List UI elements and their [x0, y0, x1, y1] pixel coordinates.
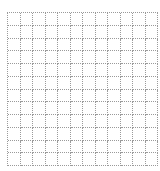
grid-cell[interactable] [146, 39, 159, 52]
grid-cell[interactable] [108, 153, 121, 166]
grid-cell[interactable] [8, 90, 21, 103]
grid-cell[interactable] [21, 39, 34, 52]
grid-cell[interactable] [133, 64, 146, 77]
grid-cell[interactable] [121, 51, 134, 64]
grid-cell[interactable] [46, 26, 59, 39]
grid-cell[interactable] [96, 90, 109, 103]
grid-cell[interactable] [33, 64, 46, 77]
grid-cell[interactable] [58, 64, 71, 77]
grid-cell[interactable] [8, 64, 21, 77]
grid-cell[interactable] [146, 153, 159, 166]
grid-cell[interactable] [33, 77, 46, 90]
grid-cell[interactable] [83, 115, 96, 128]
grid-cell[interactable] [121, 141, 134, 154]
grid-cell[interactable] [58, 141, 71, 154]
grid-cell[interactable] [46, 141, 59, 154]
grid-cell[interactable] [96, 39, 109, 52]
grid-cell[interactable] [71, 13, 84, 26]
grid-cell[interactable] [146, 141, 159, 154]
grid-cell[interactable] [21, 26, 34, 39]
grid-cell[interactable] [83, 51, 96, 64]
grid-cell[interactable] [33, 26, 46, 39]
grid-cell[interactable] [96, 153, 109, 166]
grid-cell[interactable] [96, 64, 109, 77]
grid-cell[interactable] [133, 77, 146, 90]
grid-cell[interactable] [96, 115, 109, 128]
grid-cell[interactable] [33, 13, 46, 26]
grid-cell[interactable] [108, 39, 121, 52]
grid-cell[interactable] [21, 77, 34, 90]
grid-cell[interactable] [21, 13, 34, 26]
grid-cell[interactable] [146, 102, 159, 115]
grid-cell[interactable] [46, 77, 59, 90]
grid-cell[interactable] [71, 77, 84, 90]
grid-cell[interactable] [108, 51, 121, 64]
grid-cell[interactable] [33, 115, 46, 128]
grid-cell[interactable] [71, 51, 84, 64]
grid-cell[interactable] [71, 64, 84, 77]
grid-cell[interactable] [58, 153, 71, 166]
grid-cell[interactable] [83, 102, 96, 115]
grid-cell[interactable] [8, 102, 21, 115]
grid-cell[interactable] [133, 26, 146, 39]
grid-cell[interactable] [83, 90, 96, 103]
grid-cell[interactable] [108, 102, 121, 115]
grid-cell[interactable] [8, 51, 21, 64]
grid-cell[interactable] [8, 77, 21, 90]
grid-cell[interactable] [8, 115, 21, 128]
grid-cell[interactable] [46, 102, 59, 115]
grid-cell[interactable] [46, 39, 59, 52]
grid-cell[interactable] [133, 90, 146, 103]
grid-cell[interactable] [33, 102, 46, 115]
grid-cell[interactable] [33, 51, 46, 64]
grid-cell[interactable] [83, 128, 96, 141]
grid-cell[interactable] [108, 26, 121, 39]
grid-cell[interactable] [83, 153, 96, 166]
grid-cell[interactable] [133, 153, 146, 166]
grid-cell[interactable] [146, 26, 159, 39]
grid-cell[interactable] [8, 13, 21, 26]
grid-cell[interactable] [96, 26, 109, 39]
grid-cell[interactable] [108, 141, 121, 154]
grid-cell[interactable] [71, 141, 84, 154]
grid-cell[interactable] [96, 13, 109, 26]
grid-cell[interactable] [83, 64, 96, 77]
grid-cell[interactable] [121, 39, 134, 52]
grid-cell[interactable] [33, 39, 46, 52]
grid-cell[interactable] [108, 64, 121, 77]
grid-cell[interactable] [108, 115, 121, 128]
grid-cell[interactable] [46, 13, 59, 26]
grid-cell[interactable] [96, 51, 109, 64]
grid-cell[interactable] [46, 115, 59, 128]
grid-cell[interactable] [71, 128, 84, 141]
grid-cell[interactable] [121, 26, 134, 39]
grid-cell[interactable] [133, 51, 146, 64]
grid-cell[interactable] [146, 51, 159, 64]
grid-cell[interactable] [58, 39, 71, 52]
grid-cell[interactable] [83, 77, 96, 90]
grid-cell[interactable] [133, 141, 146, 154]
grid-cell[interactable] [21, 90, 34, 103]
grid-cell[interactable] [83, 141, 96, 154]
grid-cell[interactable] [46, 90, 59, 103]
grid-cell[interactable] [96, 141, 109, 154]
grid-cell[interactable] [146, 128, 159, 141]
grid-cell[interactable] [83, 13, 96, 26]
grid-cell[interactable] [146, 13, 159, 26]
grid-cell[interactable] [146, 115, 159, 128]
grid-cell[interactable] [21, 153, 34, 166]
grid-cell[interactable] [58, 115, 71, 128]
grid-cell[interactable] [121, 153, 134, 166]
grid-cell[interactable] [121, 77, 134, 90]
grid-cell[interactable] [96, 128, 109, 141]
grid-cell[interactable] [121, 128, 134, 141]
grid-cell[interactable] [121, 102, 134, 115]
grid-cell[interactable] [46, 64, 59, 77]
grid-cell[interactable] [58, 51, 71, 64]
grid-cell[interactable] [33, 90, 46, 103]
grid-cell[interactable] [8, 141, 21, 154]
grid-cell[interactable] [133, 128, 146, 141]
grid-cell[interactable] [71, 39, 84, 52]
grid-cell[interactable] [108, 128, 121, 141]
grid-cell[interactable] [21, 141, 34, 154]
